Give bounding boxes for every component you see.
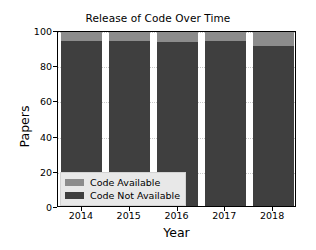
chart-title: Release of Code Over Time (0, 12, 316, 24)
y-axis-tick-label: 80 (12, 61, 52, 72)
legend-label-not-available: Code Not Available (90, 190, 180, 201)
x-axis-tick-mark (177, 207, 178, 211)
x-axis-tick-label: 2018 (246, 210, 298, 221)
chart-legend: Code Available Code Not Available (60, 172, 186, 206)
legend-label-available: Code Available (90, 177, 160, 188)
x-axis-tick-mark (224, 207, 225, 211)
y-axis-tick-label: 100 (12, 26, 52, 37)
x-axis-tick-label: 2014 (55, 210, 107, 221)
y-axis-tick-label: 60 (12, 96, 52, 107)
y-axis-tick-label: 40 (12, 131, 52, 142)
y-axis-tick-label: 0 (12, 202, 52, 213)
x-axis-tick-label: 2015 (103, 210, 155, 221)
x-axis-tick-mark (81, 207, 82, 211)
chart-figure: Release of Code Over Time Papers Year 02… (0, 0, 316, 250)
x-axis-label: Year (57, 225, 296, 240)
x-axis-tick-label: 2016 (151, 210, 203, 221)
bar-segment[interactable] (157, 31, 198, 42)
bar-segment[interactable] (205, 31, 246, 41)
bar-segment[interactable] (109, 31, 150, 41)
bar-segment[interactable] (61, 31, 102, 41)
y-axis-tick-label: 20 (12, 166, 52, 177)
bar-group[interactable] (253, 31, 294, 206)
x-axis-tick-mark (129, 207, 130, 211)
legend-item-code-not-available: Code Not Available (65, 189, 180, 202)
bar-segment[interactable] (205, 41, 246, 206)
y-axis-tick-mark (53, 207, 57, 208)
x-axis-tick-mark (272, 207, 273, 211)
legend-item-code-available: Code Available (65, 176, 180, 189)
bar-group[interactable] (205, 31, 246, 206)
legend-swatch-available-icon (65, 179, 84, 186)
bar-segment[interactable] (253, 46, 294, 206)
legend-swatch-not-available-icon (65, 192, 84, 199)
x-axis-tick-label: 2017 (198, 210, 250, 221)
bar-segment[interactable] (253, 31, 294, 46)
